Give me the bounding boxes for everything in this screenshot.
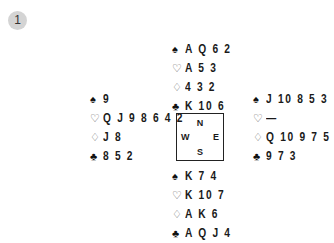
diamond-icon: ♢ — [172, 205, 185, 224]
east-hand: ♠J 10 8 5 3 ♡— ♢Q 10 9 7 5 ♣9 7 3 — [253, 90, 334, 166]
north-spades: ♠A Q 6 2 — [172, 40, 240, 59]
spade-icon: ♠ — [172, 167, 185, 186]
south-spades: ♠K 7 4 — [172, 167, 240, 186]
heart-icon: ♡ — [172, 59, 185, 78]
compass-south: S — [177, 147, 223, 157]
east-diamonds: ♢Q 10 9 7 5 — [253, 128, 334, 147]
south-clubs: ♣A Q J 4 — [172, 224, 240, 243]
compass-north: N — [177, 118, 223, 128]
south-diamonds: ♢A K 6 — [172, 205, 240, 224]
east-clubs: ♣9 7 3 — [253, 147, 334, 166]
compass-east: E — [213, 132, 219, 142]
diamond-icon: ♢ — [253, 128, 266, 147]
heart-icon: ♡ — [172, 186, 185, 205]
heart-icon: ♡ — [90, 109, 103, 128]
east-spades: ♠J 10 8 5 3 — [253, 90, 334, 109]
spade-icon: ♠ — [90, 90, 103, 109]
club-icon: ♣ — [253, 147, 266, 166]
south-hearts: ♡K 10 7 — [172, 186, 240, 205]
club-icon: ♣ — [172, 224, 185, 243]
club-icon: ♣ — [90, 147, 103, 166]
south-hand: ♠K 7 4 ♡K 10 7 ♢A K 6 ♣A Q J 4 — [172, 167, 240, 243]
heart-icon: ♡ — [253, 109, 266, 128]
spade-icon: ♠ — [172, 40, 185, 59]
compass-west: W — [181, 132, 190, 142]
east-hearts: ♡— — [253, 109, 334, 128]
compass-box: N W E S — [176, 113, 224, 161]
north-hearts: ♡A 5 3 — [172, 59, 240, 78]
diamond-icon: ♢ — [90, 128, 103, 147]
problem-number-badge: 1 — [8, 11, 27, 30]
spade-icon: ♠ — [253, 90, 266, 109]
west-spades: ♠9 — [90, 90, 198, 109]
